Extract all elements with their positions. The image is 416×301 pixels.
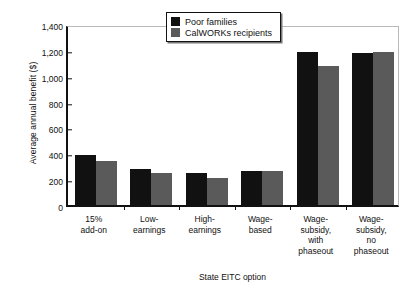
bar-poor-families <box>297 52 318 205</box>
bar-calworks-recipients <box>318 66 339 205</box>
bar-group <box>179 27 235 205</box>
legend-item: Poor families <box>171 16 272 27</box>
bar-poor-families <box>75 155 96 205</box>
y-axis-tick-label: 400 <box>19 151 68 161</box>
bar-group <box>124 27 180 205</box>
plot-area: 02004006008001,0001,2001,400 <box>66 26 399 207</box>
x-axis-tick-mark <box>290 205 291 210</box>
y-axis-tick-label: 200 <box>19 177 68 187</box>
bar-poor-families <box>130 169 151 205</box>
y-axis-tick-label: 0 <box>19 203 68 213</box>
y-axis-tick-label: 1,400 <box>19 22 68 32</box>
y-axis-tick-label: 1,000 <box>19 74 68 84</box>
bar-group <box>68 27 124 205</box>
legend-swatch-poor-families <box>171 17 180 26</box>
bar-calworks-recipients <box>151 173 172 205</box>
x-axis-tick-mark <box>235 205 236 210</box>
bar-calworks-recipients <box>262 171 283 205</box>
bar-group <box>290 27 346 205</box>
y-axis-tick-label: 800 <box>19 100 68 110</box>
y-axis-tick-label: 1,200 <box>19 48 68 58</box>
bar-calworks-recipients <box>96 161 117 205</box>
legend-label-calworks-recipients: CalWORKs recipients <box>185 28 272 38</box>
x-axis-tick-mark <box>346 205 347 210</box>
x-axis-category-label: Wage- based <box>233 214 289 235</box>
legend-item: CalWORKs recipients <box>171 27 272 38</box>
bar-group <box>235 27 291 205</box>
bar-calworks-recipients <box>207 178 228 205</box>
bar-calworks-recipients <box>373 52 394 205</box>
bar-poor-families <box>241 171 262 205</box>
bars-layer <box>68 27 398 205</box>
x-axis-title: State EITC option <box>66 272 399 282</box>
bar-poor-families <box>186 173 207 205</box>
x-axis-category-label: High- earnings <box>177 214 233 235</box>
bar-poor-families <box>352 53 373 205</box>
chart-screenshot: Average annual benefit ($) 0200400600800… <box>0 0 416 301</box>
legend: Poor families CalWORKs recipients <box>166 12 281 42</box>
x-axis-tick-mark <box>124 205 125 210</box>
legend-label-poor-families: Poor families <box>185 17 237 27</box>
x-axis-category-label: 15% add-on <box>66 214 122 235</box>
x-axis-category-label: Wage- subsidy, with phaseout <box>288 214 344 256</box>
x-axis-tick-mark <box>179 205 180 210</box>
bar-group <box>346 27 402 205</box>
y-axis-tick-label: 600 <box>19 125 68 135</box>
x-axis-category-label: Wage- subsidy, no phaseout <box>344 214 400 256</box>
x-axis-category-label: Low- earnings <box>122 214 178 235</box>
legend-swatch-calworks-recipients <box>171 28 180 37</box>
